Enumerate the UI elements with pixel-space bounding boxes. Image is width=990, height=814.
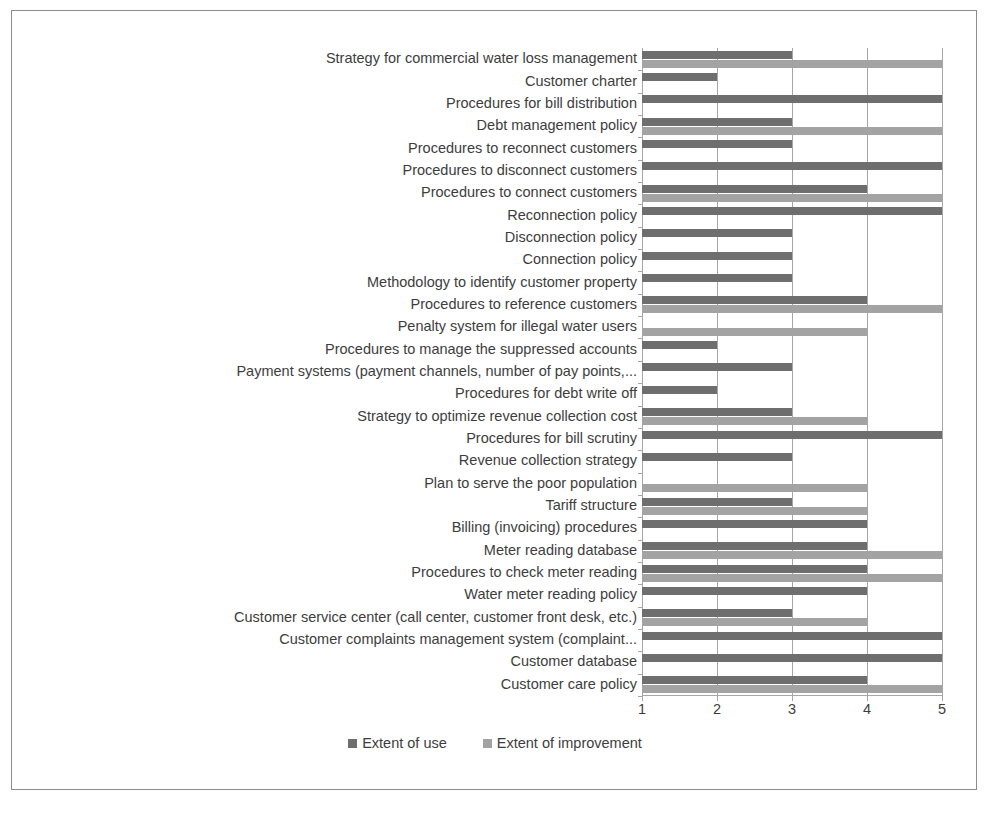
- category-tick: [638, 428, 642, 429]
- category-label: Methodology to identify customer propert…: [367, 275, 637, 289]
- bar-group: [642, 383, 942, 405]
- bar-extent-of-use: [642, 431, 942, 439]
- category-label: Payment systems (payment channels, numbe…: [236, 364, 637, 378]
- bar-extent-of-use: [642, 73, 717, 81]
- category-tick: [638, 70, 642, 71]
- legend-item-extent-of-use[interactable]: Extent of use: [348, 735, 447, 751]
- bar-extent-of-improvement: [642, 127, 942, 135]
- category-label: Water meter reading policy: [464, 587, 637, 601]
- category-label: Customer database: [510, 654, 637, 668]
- category-tick: [638, 227, 642, 228]
- category-tick: [638, 271, 642, 272]
- category-label: Reconnection policy: [507, 208, 637, 222]
- bar-extent-of-use: [642, 140, 792, 148]
- bar-extent-of-improvement: [642, 60, 942, 68]
- category-label: Connection policy: [523, 252, 637, 266]
- bar-extent-of-use: [642, 654, 942, 662]
- bar-group: [642, 540, 942, 562]
- category-label: Procedures for bill distribution: [446, 96, 637, 110]
- category-tick: [638, 584, 642, 585]
- bar-group: [642, 361, 942, 383]
- legend-swatch-icon: [348, 739, 357, 748]
- category-label: Strategy to optimize revenue collection …: [357, 409, 637, 423]
- bar-extent-of-improvement: [642, 685, 942, 693]
- bar-extent-of-use: [642, 587, 867, 595]
- value-tick-label-3: 3: [788, 701, 796, 717]
- category-label: Customer service center (call center, cu…: [234, 610, 637, 624]
- bar-extent-of-improvement: [642, 305, 942, 313]
- bar-extent-of-use: [642, 229, 792, 237]
- legend-item-extent-of-improvement[interactable]: Extent of improvement: [483, 735, 642, 751]
- bar-extent-of-use: [642, 341, 717, 349]
- bar-group: [642, 204, 942, 226]
- category-tick: [638, 495, 642, 496]
- bar-extent-of-use: [642, 296, 867, 304]
- category-tick: [638, 607, 642, 608]
- category-label: Revenue collection strategy: [459, 453, 637, 467]
- value-tick-label-2: 2: [713, 701, 721, 717]
- bar-extent-of-improvement: [642, 484, 867, 492]
- bar-extent-of-improvement: [642, 574, 942, 582]
- bar-group: [642, 428, 942, 450]
- bar-extent-of-use: [642, 542, 867, 550]
- category-label: Debt management policy: [477, 118, 637, 132]
- bar-extent-of-use: [642, 632, 942, 640]
- bar-extent-of-use: [642, 676, 867, 684]
- category-tick: [638, 651, 642, 652]
- bar-chart: Strategy for commercial water loss manag…: [12, 11, 978, 791]
- category-tick: [638, 249, 642, 250]
- category-tick: [638, 338, 642, 339]
- legend-label: Extent of improvement: [497, 735, 642, 751]
- bar-group: [642, 629, 942, 651]
- category-tick: [638, 160, 642, 161]
- category-label: Procedures for bill scrutiny: [466, 431, 637, 445]
- bar-extent-of-improvement: [642, 618, 867, 626]
- bar-extent-of-use: [642, 51, 792, 59]
- category-label: Customer charter: [525, 74, 637, 88]
- bar-group: [642, 406, 942, 428]
- bar-group: [642, 115, 942, 137]
- bar-group: [642, 93, 942, 115]
- chart-legend: Extent of useExtent of improvement: [12, 735, 978, 751]
- bar-extent-of-use: [642, 252, 792, 260]
- bar-group: [642, 70, 942, 92]
- bar-group: [642, 674, 942, 696]
- bar-group: [642, 48, 942, 70]
- legend-swatch-icon: [483, 739, 492, 748]
- bar-group: [642, 607, 942, 629]
- bar-extent-of-use: [642, 520, 867, 528]
- bar-extent-of-use: [642, 609, 792, 617]
- bar-extent-of-use: [642, 95, 942, 103]
- bar-group: [642, 271, 942, 293]
- category-label: Disconnection policy: [505, 230, 637, 244]
- bar-group: [642, 249, 942, 271]
- bar-extent-of-use: [642, 498, 792, 506]
- category-tick: [638, 137, 642, 138]
- category-tick: [638, 562, 642, 563]
- category-tick: [638, 629, 642, 630]
- bar-group: [642, 137, 942, 159]
- bar-extent-of-use: [642, 274, 792, 282]
- bar-group: [642, 227, 942, 249]
- category-label: Procedures to disconnect customers: [402, 163, 637, 177]
- bar-extent-of-use: [642, 162, 942, 170]
- value-axis-tick-labels: 12345: [642, 701, 942, 723]
- category-tick: [638, 473, 642, 474]
- category-label: Procedures to connect customers: [421, 185, 637, 199]
- bar-group: [642, 338, 942, 360]
- category-tick: [638, 115, 642, 116]
- bar-extent-of-use: [642, 408, 792, 416]
- bar-extent-of-use: [642, 386, 717, 394]
- category-label: Procedures to check meter reading: [411, 565, 637, 579]
- category-label: Meter reading database: [484, 543, 637, 557]
- bar-group: [642, 160, 942, 182]
- category-label: Customer care policy: [501, 677, 637, 691]
- category-tick: [638, 182, 642, 183]
- category-tick: [638, 294, 642, 295]
- category-tick: [638, 540, 642, 541]
- bar-group: [642, 294, 942, 316]
- bar-extent-of-improvement: [642, 417, 867, 425]
- bar-group: [642, 495, 942, 517]
- category-tick: [638, 406, 642, 407]
- category-label: Procedures to manage the suppressed acco…: [325, 342, 637, 356]
